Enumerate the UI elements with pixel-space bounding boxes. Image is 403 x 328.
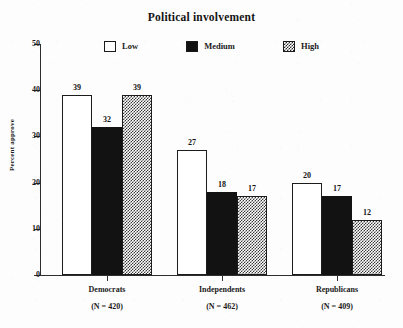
bar-group-democrats: 393239 [62, 44, 152, 275]
x-category-sample-size: (N = 462) [162, 302, 282, 311]
y-tick-label: 20 [14, 178, 40, 187]
y-tick-label: 30 [14, 131, 40, 140]
y-tick-label: 40 [14, 85, 40, 94]
bar-value-label: 17 [238, 184, 266, 193]
x-category-sample-size: (N = 420) [47, 302, 167, 311]
x-category-sample-size: (N = 409) [277, 302, 397, 311]
bar-independents-medium[interactable]: 18 [207, 192, 237, 275]
bar-value-label: 18 [208, 180, 236, 189]
bar-group-independents: 271817 [177, 44, 267, 275]
bar-group-republicans: 201712 [292, 44, 382, 275]
x-category-republicans: Republicans(N = 409) [277, 285, 397, 311]
bar-value-label: 17 [323, 184, 351, 193]
y-axis-title: Percent approve [8, 110, 16, 180]
bar-independents-low[interactable]: 27 [177, 150, 207, 275]
bar-value-label: 39 [123, 83, 151, 92]
bar-democrats-low[interactable]: 39 [62, 95, 92, 275]
x-category-name: Democrats [47, 285, 167, 294]
bar-value-label: 27 [178, 138, 206, 147]
bar-republicans-low[interactable]: 20 [292, 183, 322, 275]
x-category-name: Independents [162, 285, 282, 294]
bar-value-label: 32 [93, 115, 121, 124]
x-tick-mark [337, 276, 338, 281]
plot-area: 393239271817201712 [41, 44, 385, 275]
x-tick-mark [222, 276, 223, 281]
bar-democrats-medium[interactable]: 32 [92, 127, 122, 275]
y-tick-label: 50 [14, 39, 40, 48]
x-category-independents: Independents(N = 462) [162, 285, 282, 311]
bar-chart-figure: Political involvement Low Medium High Pe… [0, 0, 403, 328]
bar-republicans-high[interactable]: 12 [352, 220, 382, 275]
bar-democrats-high[interactable]: 39 [122, 95, 152, 275]
x-tick-mark [107, 276, 108, 281]
x-category-name: Republicans [277, 285, 397, 294]
bar-value-label: 12 [353, 208, 381, 217]
y-tick-label: 0 [14, 270, 40, 279]
bar-republicans-medium[interactable]: 17 [322, 196, 352, 275]
bar-independents-high[interactable]: 17 [237, 196, 267, 275]
chart-title: Political involvement [0, 11, 403, 23]
x-category-democrats: Democrats(N = 420) [47, 285, 167, 311]
bar-value-label: 20 [293, 171, 321, 180]
x-axis-line [40, 275, 385, 276]
y-tick-label: 10 [14, 224, 40, 233]
bar-value-label: 39 [63, 83, 91, 92]
